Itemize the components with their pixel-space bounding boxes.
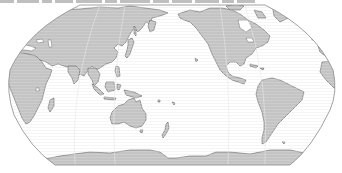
- iceland-island: [300, 22, 306, 25]
- land-texture: [0, 0, 342, 173]
- world-map: [0, 0, 342, 173]
